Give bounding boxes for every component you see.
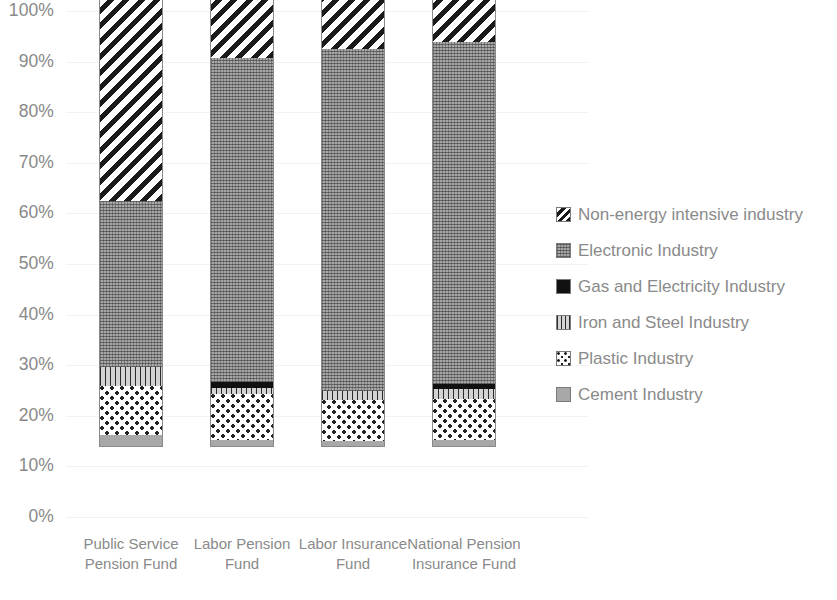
bar-segment: [321, 0, 385, 49]
gridline: [66, 517, 588, 518]
legend-item[interactable]: Plastic Industry: [556, 340, 836, 376]
y-axis-tick-label: 80%: [19, 103, 54, 121]
bar-segment: [321, 391, 385, 400]
legend-item[interactable]: Electronic Industry: [556, 232, 836, 268]
bar-segment: [99, 201, 163, 367]
legend-item-label: Cement Industry: [578, 386, 703, 403]
legend-item-label: Non-energy intensive industry: [578, 206, 803, 223]
x-axis-category-label: Labor Pension Fund: [182, 534, 302, 574]
y-axis-tick-label: 50%: [19, 255, 54, 273]
y-axis: 100%90%80%70%60%50%40%30%20%10%0%: [0, 0, 62, 530]
y-axis-tick-label: 40%: [19, 306, 54, 324]
legend-item-label: Electronic Industry: [578, 242, 718, 259]
y-axis-tick-label: 70%: [19, 154, 54, 172]
bar-segment: [432, 389, 496, 399]
y-axis-tick-label: 20%: [19, 407, 54, 425]
legend-swatch-icon: [556, 243, 571, 258]
bar-segment: [432, 440, 496, 447]
legend-swatch-icon: [556, 315, 571, 330]
legend-item-label: Iron and Steel Industry: [578, 314, 749, 331]
y-axis-tick-label: 10%: [19, 457, 54, 475]
legend-item-label: Plastic Industry: [578, 350, 693, 367]
x-axis-category-label: Labor Insurance Fund: [293, 534, 413, 574]
x-axis-category-label: National Pension Insurance Fund: [404, 534, 524, 574]
legend-item-label: Gas and Electricity Industry: [578, 278, 785, 295]
bar-segment: [432, 42, 496, 384]
legend-item[interactable]: Gas and Electricity Industry: [556, 268, 836, 304]
bar-segment: [321, 400, 385, 441]
bar-segment: [210, 394, 274, 441]
bar-segment: [210, 0, 274, 58]
legend-swatch-icon: [556, 387, 571, 402]
bar-column: [99, 0, 163, 447]
bar-segment: [210, 58, 274, 381]
legend-swatch-icon: [556, 279, 571, 294]
plot-area: [0, 0, 560, 530]
legend-swatch-icon: [556, 351, 571, 366]
bar-column: [210, 0, 274, 447]
bar-segment: [210, 382, 274, 388]
legend-item[interactable]: Cement Industry: [556, 376, 836, 412]
x-axis-category-label: Public Service Pension Fund: [71, 534, 191, 574]
legend-item[interactable]: Iron and Steel Industry: [556, 304, 836, 340]
bar-segment: [99, 367, 163, 386]
y-axis-tick-label: 30%: [19, 356, 54, 374]
gridline: [66, 466, 588, 467]
y-axis-tick-label: 100%: [9, 2, 54, 20]
bar-segment: [99, 386, 163, 435]
bar-segment: [432, 384, 496, 389]
bar-segment: [99, 435, 163, 447]
chart-legend: Non-energy intensive industryElectronic …: [556, 196, 836, 412]
stacked-bar-chart: 100%90%80%70%60%50%40%30%20%10%0% Public…: [0, 0, 837, 600]
legend-swatch-icon: [556, 207, 571, 222]
y-axis-tick-label: 0%: [29, 508, 55, 526]
bar-segment: [99, 0, 163, 201]
y-axis-tick-label: 60%: [19, 204, 54, 222]
bar-segment: [432, 399, 496, 439]
bar-segment: [210, 388, 274, 394]
bar-segment: [210, 440, 274, 447]
legend-item[interactable]: Non-energy intensive industry: [556, 196, 836, 232]
bar-column: [321, 0, 385, 447]
bar-column: [432, 0, 496, 447]
y-axis-tick-label: 90%: [19, 53, 54, 71]
bar-segment: [432, 0, 496, 42]
bar-segment: [321, 49, 385, 391]
bar-segment: [321, 441, 385, 447]
